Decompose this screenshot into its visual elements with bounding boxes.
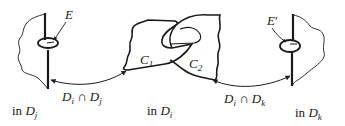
caption-di: in Di [147,103,172,120]
caption-dk-var: D [308,105,317,120]
component-c1 [124,20,192,70]
label-c2-var: C [189,56,198,71]
label-dicapdj-right-var: D [90,89,99,104]
caption-di-prefix: in [147,103,157,118]
label-dicapdk-right-var: D [252,91,261,106]
label-e: E [65,8,73,21]
label-di-cap-dk: Di ∩ Dk [224,92,265,108]
diagram-canvas [0,0,345,126]
caption-dk: in Dk [295,105,322,122]
label-c1: C1 [140,53,153,69]
caption-di-var: D [160,103,169,118]
label-di-cap-dj: Di ∩ Dj [62,90,102,106]
label-dicapdk-left-sub: i [233,98,236,108]
label-dicapdj-right-sub: j [99,96,102,106]
disk-e-prime [280,40,300,52]
component-c2-lobe [170,27,201,44]
label-dicapdk-left-var: D [224,91,233,106]
label-dicapdj-operator: ∩ [77,89,86,104]
arrow-di-cap-dj [51,71,126,84]
caption-dj-prefix: in [12,103,22,118]
caption-dj-var: D [25,103,34,118]
label-dicapdk-operator: ∩ [239,91,248,106]
pointer-e-prime [272,28,286,42]
caption-dk-sub: k [318,112,322,122]
disk-e-radius [47,42,54,43]
label-c2-sub: 2 [198,63,203,73]
label-dicapdj-left-var: D [62,89,71,104]
region-dj-outline [18,14,48,89]
panel-dj [18,13,66,89]
pointer-e [54,22,66,40]
label-c1-sub: 1 [149,59,154,69]
label-e-prime-mark: ′ [275,13,278,28]
label-c1-var: C [140,52,149,67]
caption-dj-sub: j [35,110,38,120]
panel-dk [272,14,324,86]
topology-diagram: E E′ C1 C2 Di ∩ Dj Di ∩ Dk in Dj in Di i… [0,0,345,126]
panel-di [124,15,221,80]
caption-dj: in Dj [12,103,37,120]
caption-di-sub: i [170,110,173,120]
label-dicapdk-right-sub: k [261,98,265,108]
label-e-prime-var: E [267,13,275,28]
label-dicapdj-left-sub: i [71,96,74,106]
caption-dk-prefix: in [295,105,305,120]
label-e-var: E [65,7,73,22]
arrow-di-cap-dk [213,76,290,86]
label-e-prime: E′ [267,14,278,27]
label-c2: C2 [189,57,202,73]
